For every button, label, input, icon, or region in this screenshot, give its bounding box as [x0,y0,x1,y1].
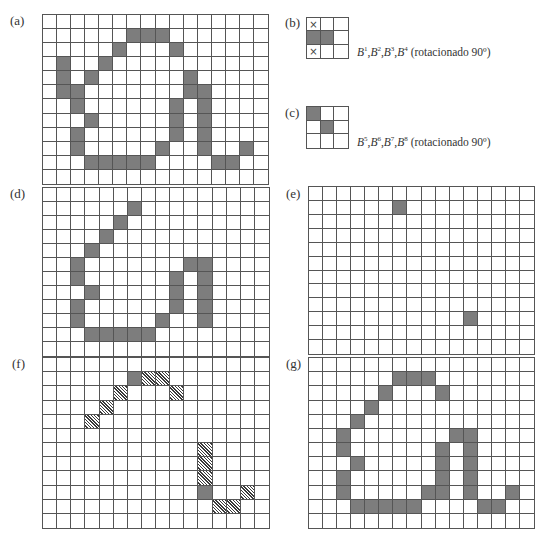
grid-cell [436,372,450,386]
grid-cell [227,415,241,429]
grid-cell [227,300,241,314]
grid-cell [114,443,128,457]
grid-cell [492,298,506,312]
grid-cell [170,258,184,272]
grid-cell [492,429,506,443]
grid-cell [212,128,226,142]
grid-cell [213,300,227,314]
grid-cell [156,471,170,485]
grid-cell [422,187,436,201]
grid-cell [309,415,323,429]
grid-cell [255,314,269,328]
grid-cell [241,272,255,286]
grid-cell [506,457,520,471]
grid-cell [156,286,170,300]
grid-cell [85,358,99,372]
grid-cell [365,271,379,285]
grid-cell [520,429,534,443]
grid-cell [351,514,365,528]
grid-cell [226,128,240,142]
grid-cell [240,43,254,57]
grid-cell [255,358,269,372]
grid-cell [520,326,534,340]
grid-cell [393,312,407,326]
grid-cell [170,156,184,170]
grid-cell [255,514,269,528]
shaded-cell [198,486,212,500]
grid-cell [422,340,436,354]
grid-cell [337,514,351,528]
grid-cell [323,201,337,215]
pixel-grid-e [308,186,535,355]
shaded-cell [337,486,351,500]
grid-cell [128,314,142,328]
grid-cell [492,457,506,471]
shaded-cell [141,29,155,43]
grid-cell [198,415,212,429]
grid-cell [393,514,407,528]
grid-cell [57,258,71,272]
grid-cell [506,284,520,298]
shaded-cell [113,43,127,57]
grid-cell [100,342,114,356]
grid-cell [71,244,85,258]
grid-cell [309,326,323,340]
hatched-cell [198,457,212,471]
grid-cell [351,271,365,285]
grid-cell [71,500,85,514]
grid-cell [156,486,170,500]
shaded-cell [170,128,184,142]
grid-cell [422,500,436,514]
grid-cell [57,202,71,216]
grid-cell [128,300,142,314]
grid-cell [113,114,127,128]
grid-cell [393,401,407,415]
grid-cell [184,358,198,372]
hatched-cell [213,500,227,514]
grid-cell [43,244,57,258]
grid-cell [227,342,241,356]
grid-cell [520,386,534,400]
grid-cell [379,326,393,340]
grid-cell [464,215,478,229]
grid-cell [365,471,379,485]
grid-cell [478,340,492,354]
grid-cell [407,312,421,326]
grid-cell [127,128,141,142]
grid-cell [436,358,450,372]
grid-cell [393,471,407,485]
grid-cell [365,429,379,443]
grid-cell [422,243,436,257]
grid-cell [351,372,365,386]
grid-cell [478,358,492,372]
grid-cell [309,201,323,215]
grid-cell [492,201,506,215]
pixel-grid-a [42,14,269,185]
grid-cell [227,372,241,386]
grid-cell [113,15,127,29]
caption-symbol: B [384,46,391,58]
grid-cell [43,156,57,170]
grid-cell [100,429,114,443]
grid-cell [422,312,436,326]
grid-cell [241,244,255,258]
grid-cell [57,415,71,429]
grid-cell [156,57,170,71]
grid-cell [43,443,57,457]
grid-cell [422,401,436,415]
grid-cell [492,340,506,354]
grid-cell [450,514,464,528]
grid-cell [307,134,321,148]
grid-cell [71,457,85,471]
grid-cell [227,386,241,400]
grid-cell [128,443,142,457]
shaded-cell [436,443,450,457]
grid-cell [57,188,71,202]
grid-cell [337,326,351,340]
grid-cell [422,386,436,400]
grid-cell [255,188,269,202]
grid-cell [71,170,85,184]
grid-cell [198,57,212,71]
shaded-cell [436,486,450,500]
grid-cell [255,286,269,300]
